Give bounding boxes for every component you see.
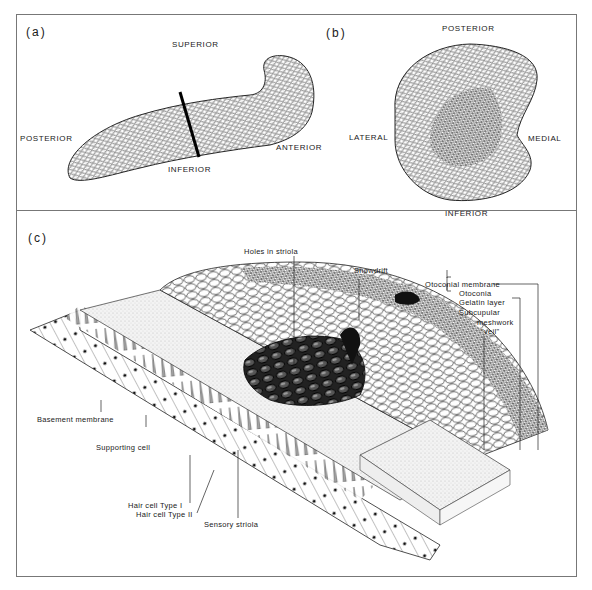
otoconia-label: Otoconia	[459, 289, 491, 298]
figure-illustration	[0, 0, 592, 590]
holes-in-striola-label: Holes in striola	[244, 247, 298, 256]
gelatin-layer-label: Gelatin layer	[459, 298, 505, 307]
panel-a-drawing	[68, 56, 314, 181]
snowdrift-label: Snowdrift	[354, 266, 388, 275]
panel-a-superior-label: SUPERIOR	[172, 40, 219, 49]
veil-label: "veil"	[481, 327, 499, 336]
otoconial-membrane-label: Otoconial membrane	[425, 280, 500, 289]
hair-cell-type-1-label: Hair cell Type I	[128, 501, 182, 510]
panel-c-label: (c)	[28, 231, 48, 245]
panel-b-medial-label: MEDIAL	[528, 134, 561, 143]
panel-a-inferior-label: INFERIOR	[168, 165, 211, 174]
panel-b-posterior-label: POSTERIOR	[442, 24, 495, 33]
panel-a-posterior-label: POSTERIOR	[20, 134, 73, 143]
panel-a-label: (a)	[26, 25, 47, 39]
meshwork-label: meshwork	[477, 318, 514, 327]
sensory-striola-label: Sensory striola	[204, 520, 258, 529]
panel-b-lateral-label: LATERAL	[349, 133, 388, 142]
subcupular-label: Subcupular	[459, 308, 500, 317]
panel-b-drawing	[395, 44, 537, 201]
panel-a-anterior-label: ANTERIOR	[276, 143, 322, 152]
hair-cell-type-2-label: Hair cell Type II	[136, 510, 193, 519]
panel-b-label: (b)	[326, 26, 347, 40]
basement-membrane-label: Basement membrane	[37, 415, 114, 424]
panel-b-inferior-label: INFERIOR	[445, 209, 488, 218]
supporting-cell-label: Supporting cell	[96, 443, 150, 452]
